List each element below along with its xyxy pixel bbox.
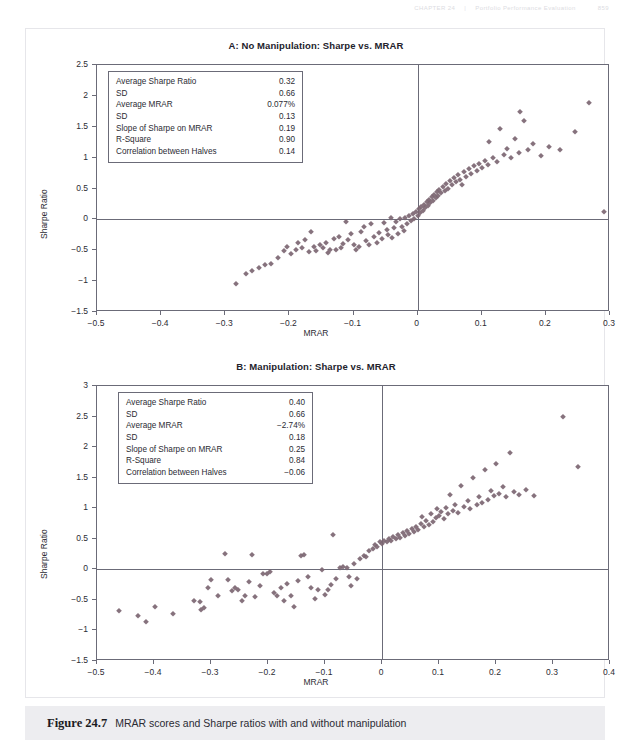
data-point [512, 136, 518, 142]
chart-a-y-tick-label: 2.5 [50, 59, 88, 69]
data-point [143, 619, 149, 625]
data-point [222, 551, 228, 557]
data-point [497, 126, 503, 132]
data-point [389, 235, 395, 241]
stats-value: 0.32 [241, 76, 295, 88]
data-point [368, 221, 374, 227]
data-point [233, 281, 239, 287]
data-point [291, 604, 297, 610]
chart-b-y-tick [92, 507, 96, 508]
zero-horizontal-line [97, 219, 608, 220]
data-point [485, 497, 491, 503]
chart-b-y-tick-label: −0.5 [50, 594, 88, 604]
stats-row: Average Sharpe Ratio0.40 [126, 397, 305, 409]
data-point [345, 237, 351, 243]
data-point [249, 268, 255, 274]
stats-label: Average Sharpe Ratio [126, 397, 251, 409]
data-point [459, 182, 465, 188]
data-point [252, 594, 258, 600]
stats-value: 0.18 [251, 432, 305, 444]
chart-b-y-tick [92, 538, 96, 539]
chart-b-y-tick-label: 0 [50, 563, 88, 573]
data-point [557, 147, 563, 153]
data-point [348, 230, 354, 236]
stats-value: 0.66 [241, 88, 295, 100]
chart-a-y-tick-label: 2 [50, 90, 88, 100]
data-point [531, 493, 537, 499]
data-point [516, 150, 522, 156]
chart-b-x-tick-label: −0.3 [202, 667, 219, 677]
stats-row: Slope of Sharpe on MRAR0.25 [126, 444, 305, 456]
data-point [481, 467, 487, 473]
data-point [366, 242, 372, 248]
chart-b-y-tick-label: 3 [50, 380, 88, 390]
running-head-separator: | [464, 5, 466, 11]
chart-b-y-tick-label: −1 [50, 624, 88, 634]
stats-row: SD0.66 [116, 88, 295, 100]
zero-horizontal-line [97, 569, 608, 570]
data-point [516, 492, 522, 498]
data-point [438, 509, 444, 515]
chart-a-y-tick [92, 188, 96, 189]
stats-row: R-Square0.84 [126, 455, 305, 467]
data-point [116, 608, 122, 614]
chart-b-stats-table: Average Sharpe Ratio0.40SD0.66Average MR… [126, 397, 305, 479]
chart-b-x-tick [552, 660, 553, 664]
data-point [330, 532, 336, 538]
data-point [530, 141, 536, 147]
data-point [170, 611, 176, 617]
data-point [268, 261, 274, 267]
chart-b-stats-box: Average Sharpe Ratio0.40SD0.66Average MR… [118, 392, 313, 484]
data-point [517, 109, 523, 115]
chart-a-y-tick [92, 157, 96, 158]
data-point [249, 552, 255, 558]
data-point [381, 220, 387, 226]
stats-value: 0.14 [241, 146, 295, 158]
data-point [485, 162, 491, 168]
data-point [343, 219, 349, 225]
figure-panel: A: No Manipulation: Sharpe vs. MRAR Shar… [25, 28, 605, 698]
data-point [275, 255, 281, 261]
chart-a-y-tick [92, 64, 96, 65]
chart-a-x-tick-label: −0.5 [88, 318, 105, 328]
data-point [391, 225, 397, 231]
stats-value: 0.13 [241, 111, 295, 123]
data-point [301, 552, 307, 558]
chart-panel-a: A: No Manipulation: Sharpe vs. MRAR Shar… [26, 29, 606, 349]
chart-a-stats-box: Average Sharpe Ratio0.32SD0.66Average MR… [108, 71, 303, 163]
chart-b-y-tick-label: 1 [50, 502, 88, 512]
data-point [313, 248, 319, 254]
chart-b-x-tick-label: −0.5 [88, 667, 105, 677]
data-point [284, 581, 290, 587]
data-point [452, 501, 458, 507]
chart-a-y-tick [92, 218, 96, 219]
data-point [208, 577, 214, 583]
stats-value: 0.25 [251, 444, 305, 456]
chart-b-x-tick [267, 660, 268, 664]
data-point [525, 147, 531, 153]
chart-b-y-tick [92, 477, 96, 478]
chart-a-x-tick-label: 0.3 [603, 318, 615, 328]
stats-value: 0.19 [241, 123, 295, 135]
chart-a-x-tick [96, 311, 97, 315]
data-point [504, 146, 510, 152]
chart-b-x-axis-title: MRAR [303, 677, 328, 687]
zero-vertical-line [418, 65, 419, 310]
chart-a-x-tick [353, 311, 354, 315]
chart-b-y-tick-label: −1.5 [50, 655, 88, 665]
data-point [215, 593, 221, 599]
chart-a-stats-table: Average Sharpe Ratio0.32SD0.66Average MR… [116, 76, 295, 158]
data-point [320, 245, 326, 251]
chart-b-x-tick-label: 0 [379, 667, 384, 677]
chart-a-y-tick-label: −0.5 [50, 244, 88, 254]
chart-b-y-axis-title: Sharpe Ratio [39, 529, 49, 579]
running-head-page-number: 859 [598, 5, 609, 11]
stats-row: Slope of Sharpe on MRAR0.19 [116, 123, 295, 135]
data-point [298, 245, 304, 251]
stats-label: Average MRAR [116, 99, 241, 111]
data-point [373, 240, 379, 246]
chart-b-x-tick-label: 0.1 [432, 667, 444, 677]
data-point [281, 598, 287, 604]
stats-label: Average Sharpe Ratio [116, 76, 241, 88]
stats-label: Correlation between Halves [116, 146, 241, 158]
